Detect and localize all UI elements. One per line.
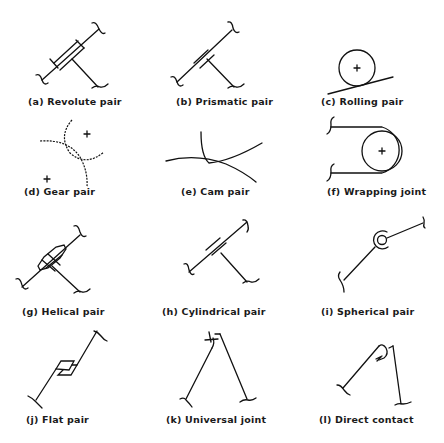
prismatic-pair-diagram: [171, 22, 244, 88]
flat-pair-diagram: [28, 331, 107, 408]
cylindrical-pair-diagram: [184, 220, 259, 283]
panel-label-j: (j) Flat pair: [26, 414, 89, 425]
panel-label-l: (l) Direct contact: [319, 414, 414, 425]
cam-pair-diagram: [166, 132, 262, 182]
spherical-pair-diagram: [339, 217, 426, 292]
panel-label-c: (c) Rolling pair: [321, 96, 403, 107]
universal-joint-diagram: [180, 332, 256, 407]
panel-label-b: (b) Prismatic pair: [176, 96, 273, 107]
kinematic-pairs-figure: [0, 0, 444, 443]
wrapping-joint-diagram: [327, 117, 402, 181]
gear-pair-diagram: [40, 120, 104, 187]
panel-label-h: (h) Cylindrical pair: [162, 306, 266, 317]
panel-label-a: (a) Revolute pair: [28, 96, 122, 107]
panel-label-e: (e) Cam pair: [181, 186, 250, 197]
panel-label-g: (g) Helical pair: [22, 306, 105, 317]
rolling-pair-diagram: [328, 50, 393, 94]
revolute-pair-diagram: [36, 23, 108, 88]
direct-contact-diagram: [337, 345, 411, 405]
panel-label-i: (i) Spherical pair: [321, 306, 414, 317]
helical-pair-diagram: [16, 226, 90, 293]
panel-label-f: (f) Wrapping joint: [327, 186, 426, 197]
panel-label-k: (k) Universal joint: [166, 414, 266, 425]
panel-label-d: (d) Gear pair: [24, 186, 95, 197]
